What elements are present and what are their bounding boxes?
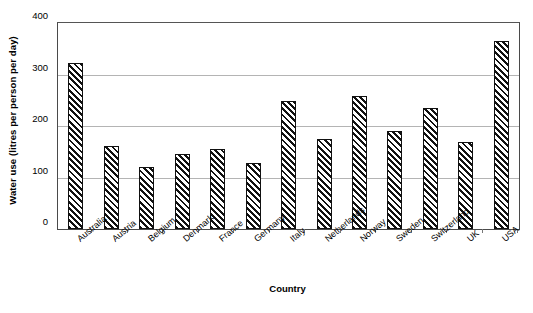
x-tick-label-slot: Germany <box>234 234 269 282</box>
y-axis-tick-labels: 400 300 200 100 0 <box>22 16 52 234</box>
x-tick-label-slot: Norway <box>341 234 376 282</box>
y-tick-label-0: 0 <box>43 217 48 227</box>
bar-slot <box>271 23 306 229</box>
bar <box>104 146 119 229</box>
bar-slot <box>377 23 412 229</box>
x-tick-label-slot: Sweden <box>376 234 411 282</box>
x-tick-label-slot: Netherlands <box>305 234 340 282</box>
bar-slot <box>484 23 519 229</box>
x-tick-label-slot: Switzerland <box>412 234 447 282</box>
bar <box>246 163 261 229</box>
bar <box>423 108 438 229</box>
x-tick-label-slot: Belgium <box>128 234 163 282</box>
bar-slot <box>164 23 199 229</box>
bar <box>317 139 332 229</box>
bar-slot <box>58 23 93 229</box>
x-tick-label-slot: UK <box>447 234 482 282</box>
x-axis-tick-labels: AustraliaAustriaBelgiumDenmarkFranceGerm… <box>57 234 518 282</box>
x-tick-label-slot: France <box>199 234 234 282</box>
bar <box>175 154 190 229</box>
y-axis-title: Water use (litres per person per day) <box>0 0 24 240</box>
bar-slot <box>448 23 483 229</box>
x-tick-label-slot: USA <box>483 234 518 282</box>
bar <box>387 131 402 229</box>
y-tick-label-400: 400 <box>32 11 48 21</box>
y-axis-title-text: Water use (litres per person per day) <box>7 36 18 205</box>
bars-layer <box>58 23 519 229</box>
x-tick-label-slot: Denmark <box>163 234 198 282</box>
x-tick-label-slot: Australia <box>57 234 92 282</box>
bar <box>281 101 296 229</box>
y-tick-label-300: 300 <box>32 63 48 73</box>
bar-slot <box>306 23 341 229</box>
bar-slot <box>129 23 164 229</box>
bar-slot <box>413 23 448 229</box>
bar-slot <box>235 23 270 229</box>
bar-chart-figure: Water use (litres per person per day) 40… <box>0 0 533 313</box>
bar-slot <box>200 23 235 229</box>
bar <box>68 63 83 229</box>
x-tick-label-slot: Italy <box>270 234 305 282</box>
x-tick-label-slot: Austria <box>92 234 127 282</box>
bar-slot <box>342 23 377 229</box>
y-tick-label-100: 100 <box>32 166 48 176</box>
bar-slot <box>93 23 128 229</box>
bar <box>494 41 509 229</box>
bar <box>139 167 154 229</box>
plot-area <box>57 22 520 230</box>
x-axis-title: Country <box>57 283 518 294</box>
y-tick-label-200: 200 <box>32 114 48 124</box>
